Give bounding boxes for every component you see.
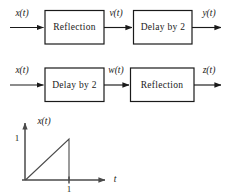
diagram-a-intermediate-label: v(t) [109, 8, 122, 19]
diagram-b-output-label: z(t) [202, 65, 216, 76]
diagram-b-intermediate-label: w(t) [108, 65, 123, 76]
diagram-b-block1-label: Delay by 2 [52, 80, 97, 90]
plot-ramp-waveform [26, 139, 70, 180]
figure-svg: x(t) Reflection v(t) Delay by 2 y(t) x(t… [0, 0, 230, 196]
plot-x-axis-label: t [114, 174, 117, 184]
plot-y-axis-label: x(t) [36, 116, 50, 127]
diagram-a-block2-label: Delay by 2 [141, 22, 186, 32]
diagram-b-input-label: x(t) [14, 65, 28, 76]
diagram-a-output-label: y(t) [201, 8, 215, 19]
diagram-b: x(t) Delay by 2 w(t) Reflection z(t) [10, 65, 221, 102]
figure-canvas: x(t) Reflection v(t) Delay by 2 y(t) x(t… [0, 0, 230, 196]
plot-x-tick-label: 1 [67, 184, 72, 194]
diagram-a-block1-label: Reflection [53, 22, 96, 32]
ramp-plot: x(t) t 1 1 [15, 116, 117, 194]
diagram-a: x(t) Reflection v(t) Delay by 2 y(t) [10, 8, 221, 44]
diagram-b-block2-label: Reflection [141, 80, 184, 90]
plot-y-tick-label: 1 [15, 133, 20, 143]
diagram-a-input-label: x(t) [14, 8, 28, 19]
